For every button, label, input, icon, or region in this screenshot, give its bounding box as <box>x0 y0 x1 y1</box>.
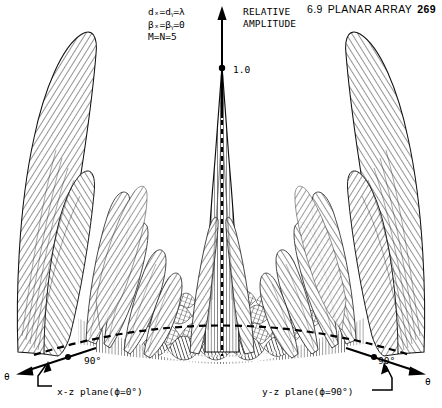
plane-label-xz: x-z plane(ϕ=0°) <box>57 386 143 397</box>
plane-label-yz: y-z plane(ϕ=90°) <box>262 386 354 397</box>
grating-lobe-right <box>346 32 425 356</box>
param-phase: βₓ=βᵧ=0 <box>148 19 185 32</box>
running-head: 6.9PLANAR ARRAY269 <box>307 3 436 15</box>
grating-lobe-left <box>17 32 96 356</box>
radiation-pattern-surface <box>0 0 442 408</box>
amplitude-label-line2: AMPLITUDE <box>243 18 296 30</box>
page-number: 269 <box>417 3 436 15</box>
section-number: 6.9 <box>307 3 323 15</box>
tick-90-right <box>371 354 377 360</box>
running-head-title: PLANAR ARRAY <box>328 3 413 15</box>
amplitude-axis-arrow <box>217 6 226 118</box>
leader-right <box>372 362 392 390</box>
amplitude-axis-label: RELATIVE AMPLITUDE <box>243 6 296 29</box>
peak-amplitude-label: 1.0 <box>233 64 250 75</box>
angle-label-left: 90° <box>84 355 101 366</box>
theta-label-left: θ <box>4 371 10 382</box>
figure-radiation-pattern: 6.9PLANAR ARRAY269 dₓ=dᵧ=λ βₓ=βᵧ=0 M=N=5… <box>0 0 442 408</box>
array-parameters: dₓ=dᵧ=λ βₓ=βᵧ=0 M=N=5 <box>148 6 185 44</box>
peak-marker <box>219 65 225 71</box>
amplitude-label-line1: RELATIVE <box>243 6 296 18</box>
param-spacing: dₓ=dᵧ=λ <box>148 6 185 19</box>
angle-label-right: 90° <box>378 355 395 366</box>
theta-label-right: θ <box>425 376 431 387</box>
tick-90-left <box>65 354 71 360</box>
param-elements: M=N=5 <box>148 31 185 44</box>
